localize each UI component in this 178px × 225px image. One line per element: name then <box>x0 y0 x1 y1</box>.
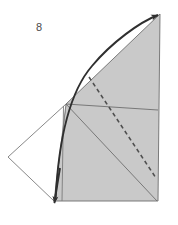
figure-canvas: 8 <box>0 0 178 225</box>
figure-number-label: 8 <box>36 22 42 33</box>
geometry-figure <box>0 0 178 225</box>
